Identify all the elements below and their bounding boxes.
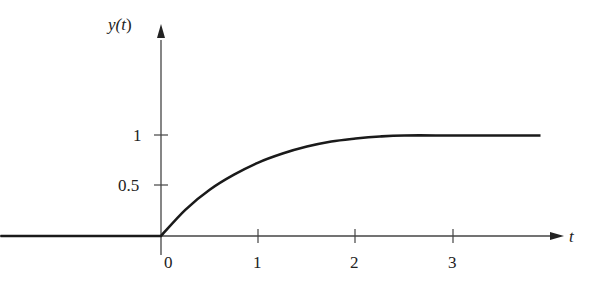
y-tick-label-0.5: 0.5	[118, 176, 139, 195]
step-response-plot: y(t) t 1 0.5 0 1 2 3	[0, 0, 600, 298]
y-axis-arrow-icon	[157, 24, 165, 38]
y-axis-label: y(t)	[106, 15, 132, 34]
x-tick-label-2: 2	[350, 253, 359, 272]
x-axis-label: t	[569, 227, 575, 246]
x-tick-label-0: 0	[164, 253, 173, 272]
response-curve	[1, 135, 541, 236]
y-tick-label-1: 1	[133, 126, 142, 145]
x-axis-arrow-icon	[550, 232, 564, 240]
x-tick-label-3: 3	[448, 253, 457, 272]
x-tick-label-1: 1	[253, 253, 262, 272]
